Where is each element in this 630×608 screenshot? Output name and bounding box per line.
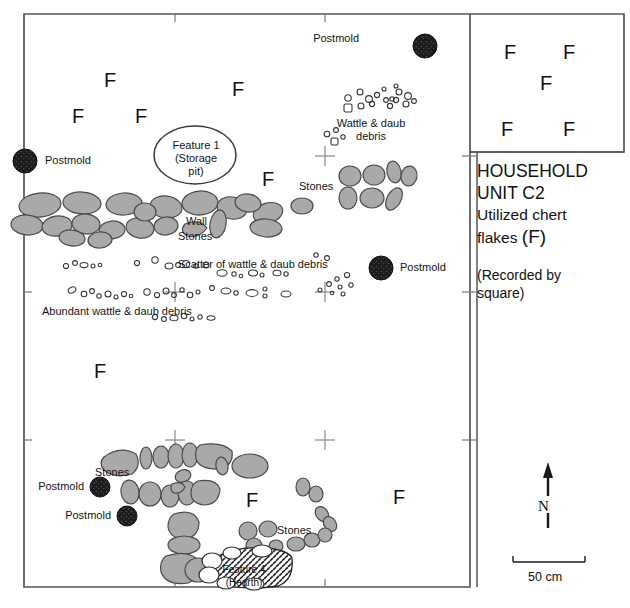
feature-1-label-line2: (Storage xyxy=(163,152,229,164)
postmold-label-lower-b: Postmold xyxy=(49,509,111,521)
legend-note-line2: square) xyxy=(477,284,625,302)
stones-label-bottom-right: Stones xyxy=(277,524,311,536)
chert-flake-marker: F xyxy=(72,106,84,126)
north-arrow-icon xyxy=(543,462,553,528)
wall-stones-label-line2: Stones xyxy=(178,230,212,242)
postmold-label-mid-right: Postmold xyxy=(400,261,446,273)
legend-subtitle-prefix: flakes xyxy=(477,229,522,246)
scatter-debris-label: Scatter of wattle & daub debris xyxy=(178,258,328,270)
legend-note-line1: (Recorded by xyxy=(477,266,625,284)
postmold-mid-right xyxy=(369,256,393,280)
legend-flake-symbol: (F) xyxy=(522,226,546,247)
stones-label-bottom-left: Stones xyxy=(95,466,129,478)
chert-flake-marker: F xyxy=(262,169,274,189)
chert-flake-marker-legend: F xyxy=(540,73,552,93)
north-label: N xyxy=(538,498,549,515)
legend-title-line2: UNIT C2 xyxy=(477,182,625,204)
chert-flake-marker-legend: F xyxy=(563,42,575,62)
legend-title-line1: HOUSEHOLD xyxy=(477,160,625,182)
feature-4-label-line2: (Hearth) xyxy=(206,577,282,588)
feature-4-label-line1: Feature 4 xyxy=(206,564,282,575)
chert-flake-marker: F xyxy=(246,490,258,510)
chert-flake-marker: F xyxy=(393,487,405,507)
scale-bar-icon xyxy=(513,556,585,562)
site-map-figure: Postmold Postmold Postmold Postmold Post… xyxy=(0,0,630,608)
feature-1-label-line3: pit) xyxy=(163,165,229,177)
postmold-label-top: Postmold xyxy=(303,32,359,44)
chert-flake-marker: F xyxy=(135,106,147,126)
postmold-left-edge xyxy=(13,149,37,173)
abundant-debris-label: Abundant wattle & daub debris xyxy=(42,305,192,317)
wattle-daub-debris-label-line1: Wattle & daub xyxy=(331,117,411,129)
chert-flake-marker: F xyxy=(232,79,244,99)
legend-subtitle-line1: Utilized chert xyxy=(477,205,625,225)
postmold-lower-a xyxy=(90,477,110,497)
scale-label: 50 cm xyxy=(528,570,562,584)
wall-stones-group xyxy=(10,190,285,249)
chert-flake-marker: F xyxy=(104,70,116,90)
postmold-lower-b xyxy=(117,506,137,526)
wattle-daub-debris-label-line2: debris xyxy=(331,130,411,142)
stones-label-midright: Stones xyxy=(299,180,333,192)
chert-flake-marker-legend: F xyxy=(504,42,516,62)
legend-panel: HOUSEHOLD UNIT C2 Utilized chert flakes … xyxy=(477,160,625,302)
feature-1-label-line1: Feature 1 xyxy=(163,139,229,151)
postmold-top xyxy=(413,34,437,58)
legend-subtitle-line2: flakes (F) xyxy=(477,225,625,250)
postmold-label-left: Postmold xyxy=(45,154,91,166)
chert-flake-marker: F xyxy=(94,361,106,381)
postmold-label-lower-a: Postmold xyxy=(22,480,84,492)
chert-flake-marker-legend: F xyxy=(563,119,575,139)
wall-stones-label-line1: Wall xyxy=(186,215,207,227)
chert-flake-marker-legend: F xyxy=(501,119,513,139)
